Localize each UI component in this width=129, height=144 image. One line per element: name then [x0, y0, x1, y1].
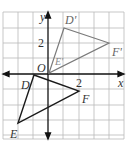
- vertex-label-D-prime: D': [64, 13, 77, 27]
- coordinate-plane: y x O 2 2 D E F D' E' F': [0, 0, 129, 144]
- x-axis-left-arrow-icon: [3, 72, 9, 77]
- vertex-label-E: E: [9, 127, 18, 141]
- y-axis-up-arrow-icon: [46, 12, 51, 18]
- vertex-label-F: F: [81, 92, 90, 106]
- y-axis-down-arrow-icon: [46, 133, 51, 139]
- x-axis-label: x: [117, 76, 124, 90]
- vertex-label-D: D: [20, 78, 30, 92]
- y-tick-label: 2: [38, 36, 44, 50]
- origin-label: O: [37, 61, 46, 75]
- y-axis-label: y: [39, 10, 46, 24]
- vertex-label-E-prime: E': [54, 56, 64, 67]
- x-tick-label: 2: [76, 76, 82, 90]
- vertex-label-F-prime: F': [111, 45, 122, 59]
